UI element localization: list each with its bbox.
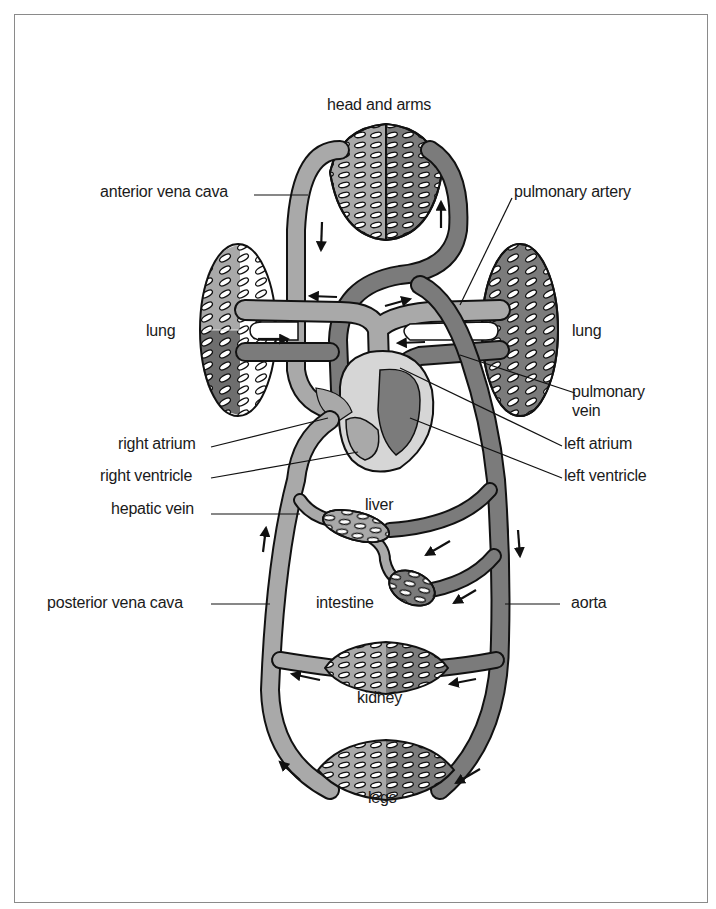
arrow-left-icon (292, 674, 320, 680)
arrow-left-icon (310, 296, 337, 297)
label-lung-right: lung (572, 322, 601, 340)
label-anterior-vena-cava: anterior vena cava (100, 183, 228, 201)
label-pulmonary-artery: pulmonary artery (514, 183, 631, 201)
label-head-and-arms: head and arms (327, 96, 431, 114)
arrow-left-icon (398, 342, 425, 343)
label-left-atrium: left atrium (564, 435, 632, 453)
arrow-up-icon (263, 528, 266, 552)
label-left-ventricle: left ventricle (564, 467, 647, 485)
label-pulmonary-vein-2: vein (572, 402, 601, 420)
kidney-capillaries (325, 642, 448, 694)
label-right-ventricle: right ventricle (100, 467, 192, 485)
label-aorta: aorta (571, 594, 606, 612)
label-liver: liver (365, 496, 393, 514)
arrow-down-icon (518, 530, 520, 556)
arrow-down-left-icon (454, 590, 476, 603)
arrow-left-icon (450, 679, 476, 684)
label-posterior-vena-cava: posterior vena cava (47, 594, 183, 612)
label-legs: legs (368, 789, 397, 807)
label-pulmonary-vein-1: pulmonary (572, 383, 645, 401)
label-hepatic-vein: hepatic vein (111, 500, 194, 518)
arrow-down-icon (321, 222, 322, 250)
label-right-atrium: right atrium (118, 435, 196, 453)
arrow-down-left-icon (426, 541, 450, 555)
circulatory-diagram (0, 0, 716, 909)
label-kidney: kidney (357, 689, 402, 707)
label-intestine: intestine (316, 594, 374, 612)
label-lung-left: lung (146, 322, 175, 340)
